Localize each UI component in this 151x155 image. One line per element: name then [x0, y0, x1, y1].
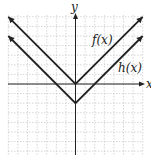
h-label: h(x) [118, 61, 142, 75]
f-label: f(x) [91, 33, 113, 47]
x-axis-label: x [146, 77, 151, 91]
x-axis-arrow-icon [139, 82, 145, 87]
y-axis-label: y [70, 0, 78, 14]
graph: x y f(x) h(x) [0, 0, 151, 155]
